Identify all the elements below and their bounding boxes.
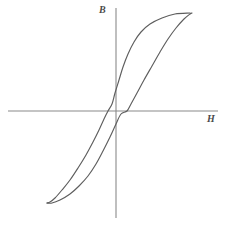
- plot-canvas: [0, 0, 232, 227]
- hysteresis-loop-figure: B H: [0, 0, 232, 227]
- y-axis-label: B: [99, 5, 106, 15]
- x-axis-label: H: [207, 114, 215, 124]
- hysteresis-ascending-branch: [47, 13, 192, 203]
- hysteresis-descending-branch: [47, 13, 190, 203]
